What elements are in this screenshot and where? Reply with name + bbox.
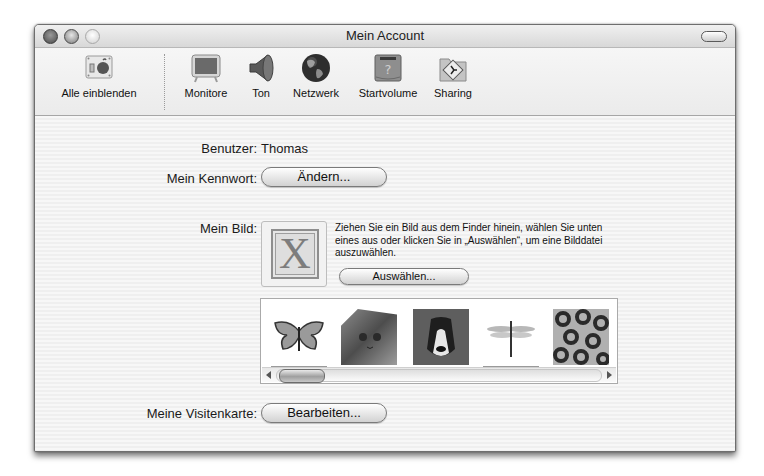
scroll-left-arrow-icon[interactable] xyxy=(266,371,271,379)
toolbar: Alle einblenden Monitore Ton xyxy=(35,48,735,116)
business-card-label: Meine Visitenkarte: xyxy=(147,406,257,421)
monitor-icon xyxy=(189,52,223,84)
sharing-folder-icon xyxy=(436,52,470,84)
toolbar-item-label: Alle einblenden xyxy=(43,87,155,99)
user-value: Thomas xyxy=(261,141,308,156)
toolbar-item-label: Netzwerk xyxy=(287,87,345,99)
toolbar-item-monitors[interactable]: Monitore xyxy=(177,52,235,99)
user-label: Benutzer: xyxy=(201,141,257,156)
picture-gallery xyxy=(260,298,618,384)
default-picture-x-icon: X xyxy=(271,229,319,279)
butterfly-icon xyxy=(271,309,327,365)
picture-help-text: Ziehen Sie ein Bild aus dem Finder hinei… xyxy=(335,222,625,260)
toolbar-item-label: Monitore xyxy=(177,87,235,99)
gallery-picture-cat[interactable] xyxy=(341,309,397,365)
gallery-picture-dragonfly[interactable] xyxy=(483,309,539,365)
choose-picture-button[interactable]: Auswählen... xyxy=(339,268,469,285)
gallery-picture-dog[interactable] xyxy=(413,309,469,365)
preferences-window: Mein Account Alle einblenden xyxy=(34,24,736,452)
window-title: Mein Account xyxy=(35,28,735,43)
picture-well[interactable]: X xyxy=(261,221,327,287)
gallery-horizontal-scrollbar[interactable] xyxy=(262,367,616,382)
gallery-picture-butterfly[interactable] xyxy=(271,309,327,365)
speaker-icon xyxy=(244,52,278,84)
toolbar-item-label: Sharing xyxy=(427,87,479,99)
toolbar-item-label: Startvolume xyxy=(351,87,425,99)
account-pane: Benutzer: Thomas Mein Kennwort: Ändern..… xyxy=(35,116,735,451)
toolbar-item-network[interactable]: Netzwerk xyxy=(287,52,345,99)
password-label: Mein Kennwort: xyxy=(167,171,257,186)
scrollbar-thumb[interactable] xyxy=(279,369,325,383)
toolbar-item-label: Ton xyxy=(243,87,279,99)
edit-business-card-button[interactable]: Bearbeiten... xyxy=(261,403,387,423)
toolbar-item-show-all[interactable]: Alle einblenden xyxy=(43,52,155,99)
gallery-picture-leopard[interactable] xyxy=(553,309,609,365)
toolbar-separator xyxy=(164,54,165,110)
toolbar-item-sound[interactable]: Ton xyxy=(243,52,279,99)
title-bar[interactable]: Mein Account xyxy=(35,25,735,48)
show-all-icon xyxy=(82,52,116,84)
change-password-button[interactable]: Ändern... xyxy=(261,167,387,187)
globe-icon xyxy=(299,52,333,84)
dog-icon xyxy=(413,309,469,365)
svg-text:?: ? xyxy=(385,62,392,77)
startup-disk-icon: ? xyxy=(371,52,405,84)
cat-icon xyxy=(341,309,397,365)
toolbar-toggle-button[interactable] xyxy=(701,31,727,42)
leopard-icon xyxy=(553,309,609,365)
dragonfly-icon xyxy=(483,309,539,365)
picture-label: Mein Bild: xyxy=(200,221,257,236)
toolbar-item-sharing[interactable]: Sharing xyxy=(427,52,479,99)
toolbar-item-startup-disk[interactable]: ? Startvolume xyxy=(351,52,425,99)
scroll-right-arrow-icon[interactable] xyxy=(607,371,612,379)
